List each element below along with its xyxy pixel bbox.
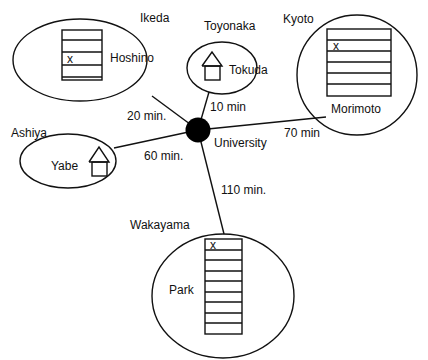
travel-time-label: 60 min. — [144, 149, 183, 163]
person-label: Park — [169, 283, 195, 297]
person-label: Hoshino — [110, 51, 154, 65]
city-label: Ikeda — [140, 11, 170, 25]
travel-time-label: 10 min — [210, 100, 246, 114]
travel-time-label: 70 min — [284, 126, 320, 140]
apartment-building-icon: x — [62, 30, 102, 80]
apartment-building-icon: x — [327, 29, 391, 96]
person-label: Tokuda — [229, 63, 268, 77]
floor-mark: x — [333, 39, 339, 53]
node-ashiya: Yabe Ashiya 60 min. — [11, 126, 183, 188]
hub-dot — [186, 118, 211, 143]
node-wakayama: x Park Wakayama 110 min. — [130, 183, 294, 358]
city-label: Toyonaka — [204, 19, 256, 33]
node-kyoto: x Morimoto Kyoto 70 min — [283, 12, 417, 140]
person-label: Morimoto — [331, 102, 381, 116]
region-ellipse — [297, 15, 417, 135]
person-label: Yabe — [51, 159, 78, 173]
node-university: University — [186, 118, 267, 151]
travel-time-label: 20 min. — [127, 109, 166, 123]
node-toyonaka: Tokuda Toyonaka 10 min — [187, 19, 268, 114]
apartment-building-icon: x — [205, 238, 242, 334]
travel-time-label: 110 min. — [221, 183, 266, 197]
commute-diagram: x Hoshino Ikeda 20 min. Tokuda Toyonaka … — [0, 0, 428, 360]
city-label: Wakayama — [130, 218, 190, 232]
edge-ashiya — [114, 130, 198, 148]
floor-mark: x — [67, 52, 73, 66]
house-icon — [202, 52, 222, 80]
city-label: Kyoto — [283, 12, 314, 26]
hub-label: University — [214, 136, 267, 150]
house-icon — [89, 147, 109, 176]
node-ikeda: x Hoshino Ikeda 20 min. — [13, 11, 170, 123]
city-label: Ashiya — [11, 126, 47, 140]
floor-mark: x — [210, 238, 216, 252]
